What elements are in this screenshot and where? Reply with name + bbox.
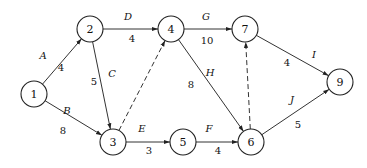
- node-label: 2: [87, 23, 94, 36]
- node-label: 9: [337, 76, 344, 89]
- node-label: 1: [31, 88, 38, 101]
- network-diagram: A4B8C5D4E3F4G10H8I4J5 12345679: [0, 0, 367, 168]
- activity-name-E: E: [137, 123, 146, 134]
- activity-duration-G: 10: [201, 35, 214, 46]
- activity-name-H: H: [205, 67, 215, 78]
- activity-name-I: I: [311, 49, 317, 60]
- activity-duration-H: 8: [188, 79, 194, 90]
- node-label: 5: [180, 136, 187, 149]
- activity-name-A: A: [38, 50, 46, 61]
- activity-arrow-I: [256, 35, 328, 75]
- activity-name-F: F: [205, 123, 214, 134]
- event-node-3: 3: [100, 129, 126, 155]
- activity-duration-J: 5: [295, 119, 301, 130]
- activity-duration-I: 4: [284, 57, 290, 68]
- activity-name-B: B: [62, 105, 70, 116]
- activity-name-J: J: [288, 94, 295, 105]
- dummy-arrow-6-7: [246, 42, 251, 129]
- activity-duration-E: 3: [146, 145, 152, 156]
- activity-duration-A: 4: [58, 62, 64, 73]
- activity-name-C: C: [108, 68, 116, 79]
- activity-arrow-B: [45, 101, 102, 135]
- edges-layer: [42, 29, 329, 142]
- activity-duration-D: 4: [129, 33, 135, 44]
- node-label: 3: [110, 136, 117, 149]
- event-node-9: 9: [327, 69, 353, 95]
- activity-duration-F: 4: [215, 145, 221, 156]
- node-label: 7: [242, 23, 249, 36]
- event-node-7: 7: [232, 16, 258, 42]
- node-label: 6: [248, 136, 255, 149]
- activity-duration-B: 8: [60, 125, 66, 136]
- event-node-5: 5: [170, 129, 196, 155]
- activity-name-D: D: [123, 11, 132, 22]
- node-label: 4: [168, 23, 175, 36]
- dummy-arrow-3-4: [119, 41, 165, 131]
- event-node-2: 2: [77, 16, 103, 42]
- event-node-4: 4: [158, 16, 184, 42]
- activity-name-G: G: [202, 11, 210, 22]
- event-node-1: 1: [21, 81, 47, 107]
- activity-duration-C: 5: [91, 76, 97, 87]
- event-node-6: 6: [238, 129, 264, 155]
